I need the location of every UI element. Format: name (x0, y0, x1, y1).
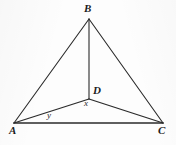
vertex-label-A: A (9, 125, 16, 136)
vertex-label-B: B (84, 3, 91, 14)
segment-AB (14, 19, 89, 123)
cevian-lines (14, 19, 163, 123)
segment-AD (14, 99, 89, 123)
segment-BC (89, 19, 163, 123)
segment-DC (89, 99, 163, 123)
vertex-label-D: D (93, 85, 101, 96)
geometry-figure: B A C D x y (0, 0, 176, 145)
angle-label-y: y (47, 111, 51, 120)
vertex-label-C: C (158, 125, 165, 136)
figure-canvas (0, 0, 176, 145)
angle-label-x: x (84, 99, 88, 108)
